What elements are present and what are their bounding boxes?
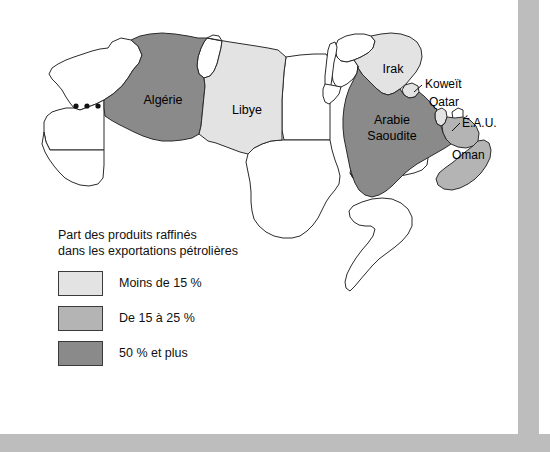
map-legend: Part des produits raffinés dans les expo… [58,228,318,373]
legend-item-high: 50 % et plus [58,338,318,368]
dotted-border-sahara [73,103,100,108]
legend-label-mid: De 15 à 25 % [119,311,195,325]
map-label-eau: É.A.U. [462,115,497,130]
map-label-algerie: Algérie [144,93,183,107]
page-surface: Algérie Libye Irak Koweït Qatar É.A.U. O… [0,0,518,434]
map-label-arabie-saoudite-line2: Saoudite [367,129,416,143]
legend-swatch-mid [58,306,103,331]
map-label-qatar: Qatar [429,95,459,109]
legend-swatch-high [58,341,103,366]
map-label-irak: Irak [383,62,405,76]
page-drop-shadow-right [518,0,539,440]
map-region-soudan [246,140,340,238]
legend-title: Part des produits raffinés dans les expo… [58,228,318,259]
map-label-oman: Oman [452,148,485,162]
map-label-koweit: Koweït [425,77,462,91]
legend-label-low: Moins de 15 % [119,276,202,290]
map-region-somalie [345,198,412,291]
figure-page: Algérie Libye Irak Koweït Qatar É.A.U. O… [0,0,550,452]
map-region-sinai [323,84,341,104]
map-label-libye: Libye [232,103,262,117]
map-label-arabie-saoudite-line1: Arabie [374,113,410,127]
page-drop-shadow-bottom [0,434,550,452]
map-region-egypte [282,54,330,140]
legend-item-low: Moins de 15 % [58,268,318,298]
legend-label-high: 50 % et plus [119,346,188,360]
legend-swatch-low [58,271,103,296]
legend-item-mid: De 15 à 25 % [58,303,318,333]
